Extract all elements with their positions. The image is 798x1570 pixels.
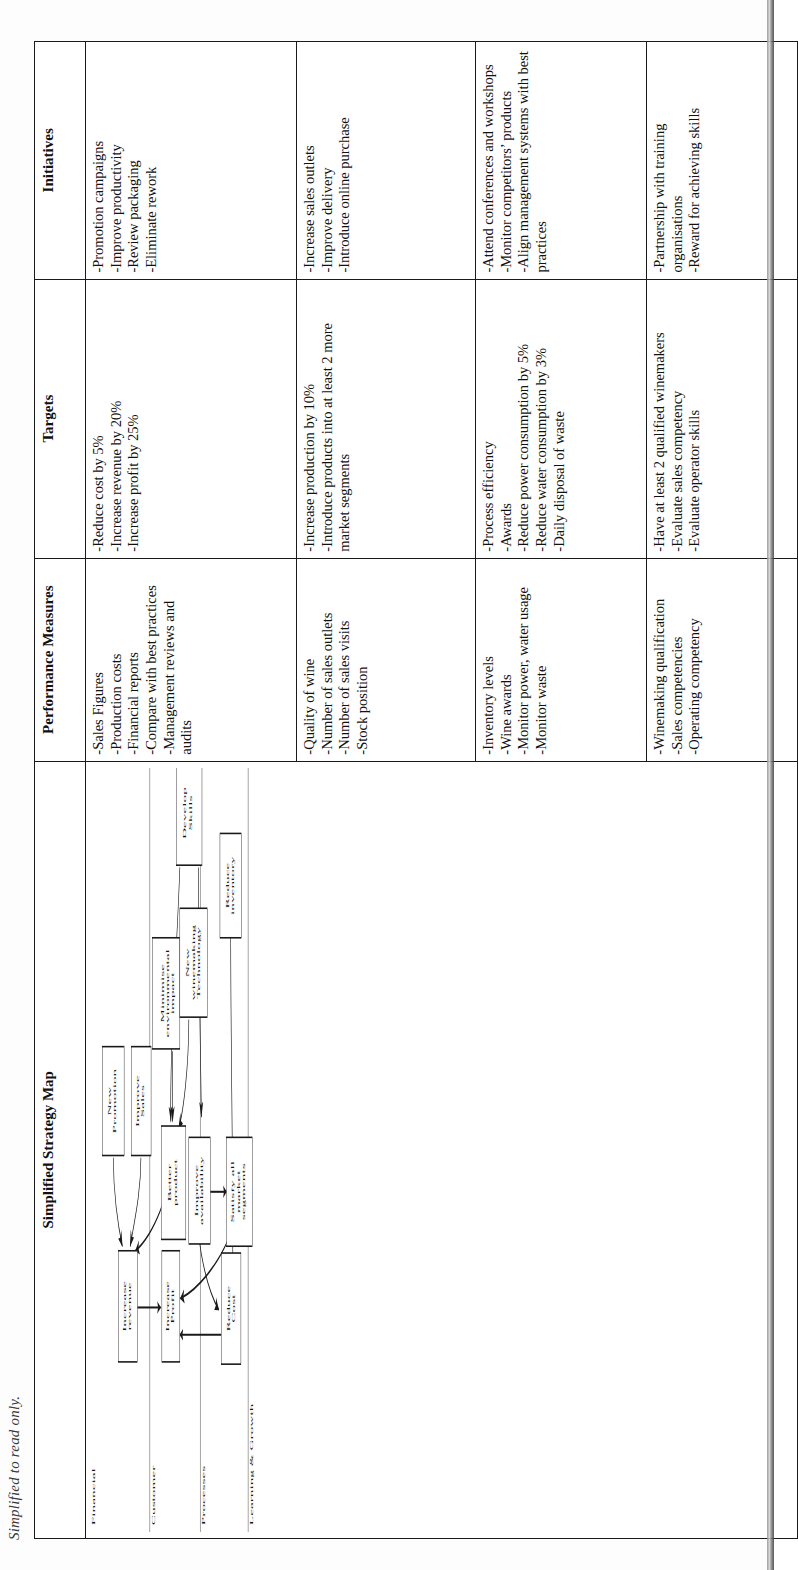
svg-text:Skills: Skills — [188, 796, 192, 831]
svg-text:Improve: Improve — [135, 1075, 139, 1127]
scan-edge-shadow — [767, 0, 774, 1570]
node-reduce-inventory: Reduce inventory — [220, 833, 242, 937]
svg-text:Improve: Improve — [194, 1165, 198, 1217]
svg-text:Cost: Cost — [231, 1293, 235, 1322]
edge-new-promotion-to-increase-revenue — [113, 1158, 122, 1246]
node-better-product: Better product — [161, 1126, 186, 1239]
svg-text:Technology: Technology — [197, 926, 201, 999]
strategy-map-diagram-cell: Financial Customer Processes Learning & … — [86, 761, 798, 1538]
node-improve-availability: Improve availability — [189, 1137, 211, 1244]
cell-processes-initiatives: -Attend conferences and workshops -Monit… — [476, 42, 647, 280]
svg-text:Satisfy all: Satisfy all — [231, 1161, 235, 1223]
lane-label-learning: Learning & Growth — [250, 1403, 254, 1525]
cell-financial-performance-measures: -Sales Figures -Production costs -Financ… — [86, 558, 297, 761]
svg-text:Sales: Sales — [141, 1085, 145, 1117]
cell-learning-targets: -Have at least 2 qualified winemakers -E… — [647, 279, 798, 558]
edge-improve-sales-to-increase-revenue — [130, 1158, 141, 1246]
figure-caption: Simplified to read only. — [6, 1396, 23, 1540]
cell-financial-initiatives: -Promotion campaigns -Improve productivi… — [86, 42, 297, 280]
lane-label-processes: Processes — [202, 1466, 206, 1525]
lane-label-customer: Customer — [151, 1465, 155, 1525]
header-initiatives: Initiatives — [35, 42, 86, 280]
node-develop-skills: Develop Skills — [176, 768, 202, 866]
cell-learning-initiatives: -Partnership with training organisations… — [647, 42, 798, 280]
svg-text:Profit: Profit — [171, 1288, 175, 1324]
cell-processes-targets: -Process efficiency -Awards -Reduce powe… — [476, 279, 647, 558]
header-performance-measures: Performance Measures — [35, 558, 86, 761]
svg-text:environmental: environmental — [165, 949, 169, 1037]
svg-text:Reduce: Reduce — [226, 1286, 230, 1332]
svg-text:Develop: Develop — [183, 787, 187, 839]
cell-customer-performance-measures: -Quality of wine -Number of sales outlet… — [297, 558, 476, 761]
svg-text:Promotion: Promotion — [113, 1068, 117, 1133]
cell-learning-performance-measures: -Winemaking qualification -Sales compete… — [647, 558, 798, 761]
svg-text:impact: impact — [171, 971, 175, 1014]
svg-text:Better: Better — [168, 1164, 172, 1202]
svg-text:availability: availability — [200, 1156, 204, 1225]
cell-customer-targets: -Increase production by 10% -Introduce p… — [297, 279, 476, 558]
svg-text:revenue: revenue — [128, 1282, 132, 1330]
lane-label-financial: Financial — [91, 1468, 95, 1525]
svg-text:market: market — [236, 1169, 240, 1213]
svg-text:Minimise: Minimise — [160, 964, 164, 1023]
cell-processes-performance-measures: -Inventory levels -Wine awards -Monitor … — [476, 558, 647, 761]
svg-text:New: New — [107, 1085, 111, 1115]
svg-text:segments: segments — [241, 1163, 245, 1220]
cell-customer-initiatives: -Increase sales outlets -Improve deliver… — [297, 42, 476, 280]
svg-text:Increase: Increase — [165, 1281, 169, 1332]
node-new-promotion: New Promotion — [103, 1047, 125, 1156]
cell-financial-targets: -Reduce cost by 5% -Increase revenue by … — [86, 279, 297, 558]
svg-text:Reduce: Reduce — [225, 863, 229, 909]
node-new-winemaking-technology: New winemaking Technology — [180, 908, 208, 1017]
svg-text:Increase: Increase — [122, 1281, 126, 1332]
table-header-row: Simplified Strategy Map Performance Meas… — [35, 42, 86, 1539]
balanced-scorecard-table: Simplified Strategy Map Performance Meas… — [34, 41, 798, 1539]
header-strategy-map: Simplified Strategy Map — [35, 761, 86, 1538]
svg-text:product: product — [173, 1158, 177, 1206]
node-reduce-cost: Reduce Cost — [222, 1253, 241, 1364]
svg-text:inventory: inventory — [231, 856, 235, 915]
node-satisfy-all-market-segments: Satisfy all market segments — [227, 1137, 253, 1246]
strategy-map-svg: Financial Customer Processes Learning & … — [90, 768, 290, 1532]
svg-text:winemaking: winemaking — [191, 924, 195, 1000]
table-row-financial: Financial Customer Processes Learning & … — [86, 42, 297, 1539]
node-minimise-environmental-impact: Minimise environmental impact — [152, 938, 180, 1049]
node-improve-sales: Improve Sales — [131, 1047, 151, 1156]
svg-text:New: New — [186, 947, 190, 977]
header-targets: Targets — [35, 279, 86, 558]
edge-new-technology-to-better-product — [179, 1019, 189, 1128]
node-increase-profit: Increase Profit — [162, 1251, 180, 1362]
node-increase-revenue: Increase revenue — [119, 1251, 138, 1362]
